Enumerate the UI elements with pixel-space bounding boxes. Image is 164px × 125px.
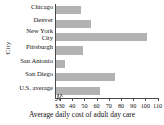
- bar-row-denver: Denver: [56, 17, 158, 30]
- bar-denver: [56, 20, 91, 28]
- category-label-san-diego: San Diego: [0, 70, 53, 77]
- plot-area: Chicago Denver New York City Pittsburgh …: [56, 4, 158, 98]
- x-axis-title: Average daily cost of adult day care: [0, 110, 164, 119]
- x-tick-label: 70: [106, 102, 112, 109]
- x-tick-label: 110: [153, 102, 162, 109]
- category-label-pittsburgh: Pittsburgh: [0, 43, 53, 50]
- bar-chicago: [56, 6, 81, 14]
- category-label-chicago: Chicago: [0, 3, 53, 10]
- category-label-denver: Denver: [0, 16, 53, 23]
- category-label-us-average: U.S. average: [0, 84, 53, 91]
- bar-new-york-city: [56, 33, 147, 41]
- bar-row-san-diego: San Diego: [56, 71, 158, 84]
- category-label-new-york-city: New York City: [0, 27, 53, 41]
- x-tick-label: 60: [94, 102, 100, 109]
- bar-row-san-antonio: San Antonio: [56, 58, 158, 71]
- x-tick-label: 50: [81, 102, 87, 109]
- bar-san-antonio: [56, 60, 65, 68]
- bar-san-diego: [56, 73, 115, 81]
- x-tick-label: $30: [55, 102, 64, 109]
- category-label-san-antonio: San Antonio: [0, 57, 53, 64]
- bar-rows: Chicago Denver New York City Pittsburgh …: [56, 4, 158, 98]
- x-tick-label: 100: [141, 102, 150, 109]
- x-tick-label: 90: [130, 102, 136, 109]
- axis-break-icon: [54, 92, 64, 101]
- bar-row-chicago: Chicago: [56, 4, 158, 17]
- x-tick-label: 40: [69, 102, 75, 109]
- bar-pittsburgh: [56, 46, 83, 54]
- bar-row-pittsburgh: Pittsburgh: [56, 44, 158, 57]
- x-tick-label: 80: [118, 102, 124, 109]
- category-label-new-york-line1: New York: [26, 27, 53, 34]
- bar-row-new-york-city: New York City: [56, 31, 158, 44]
- bar-chart: City Chicago Denver New York City Pittsb…: [0, 0, 164, 125]
- bar-row-us-average: U.S. average: [56, 85, 158, 98]
- category-label-new-york-line2: City: [42, 34, 53, 41]
